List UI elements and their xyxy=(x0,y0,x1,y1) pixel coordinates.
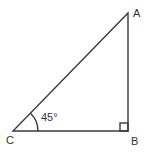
geometry-diagram: A B C 45° xyxy=(0,0,146,154)
vertex-label-b: B xyxy=(131,135,138,147)
triangle-strokes xyxy=(13,13,128,131)
angle-arc-icon xyxy=(31,113,39,131)
vertex-label-c: C xyxy=(6,134,14,146)
triangle-outline xyxy=(13,13,128,131)
figure-labels: A B C 45° xyxy=(6,7,141,147)
angle-value-label: 45° xyxy=(41,111,58,123)
right-triangle-figure: A B C 45° xyxy=(0,0,146,154)
right-angle-marker-icon xyxy=(120,123,128,131)
vertex-label-a: A xyxy=(133,7,141,19)
